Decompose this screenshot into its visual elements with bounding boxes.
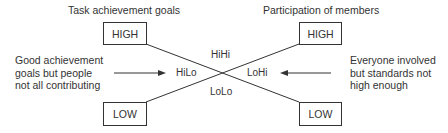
right-high-box: HIGH xyxy=(299,22,342,45)
quadrant-top-label: HiHi xyxy=(211,49,230,60)
right-high-label: HIGH xyxy=(307,28,333,40)
right-annotation-line: high enough xyxy=(350,79,436,92)
quadrant-right-label: LoHi xyxy=(247,67,268,78)
right-arrow-head-icon xyxy=(280,70,288,76)
right-low-label: LOW xyxy=(309,108,333,120)
left-annotation-line: Good achievement xyxy=(15,54,103,67)
right-annotation-line: Everyone involved xyxy=(350,54,436,67)
left-low-box: LOW xyxy=(103,102,147,126)
right-axis-title: Participation of members xyxy=(263,4,379,16)
quadrant-left-label: HiLo xyxy=(176,67,197,78)
left-annotation-line: goals but people xyxy=(15,67,103,80)
right-annotation-line: but standards not xyxy=(350,67,436,80)
right-low-box: LOW xyxy=(299,102,342,126)
quadrant-bottom-label: LoLo xyxy=(210,86,232,97)
left-axis-title: Task achievement goals xyxy=(68,4,180,16)
right-annotation: Everyone involved but standards not high… xyxy=(350,54,436,92)
left-arrow-head-icon xyxy=(158,70,166,76)
left-high-box: HIGH xyxy=(103,22,147,45)
left-high-label: HIGH xyxy=(112,28,138,40)
left-low-label: LOW xyxy=(113,108,137,120)
left-annotation: Good achievement goals but people not al… xyxy=(15,54,103,92)
left-annotation-line: not all contributing xyxy=(15,79,103,92)
